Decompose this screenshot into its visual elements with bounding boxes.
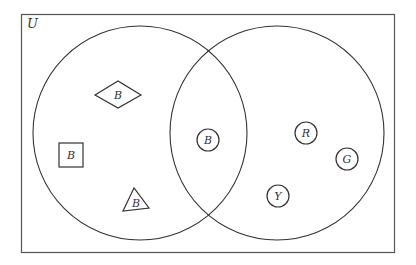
circle-g-element: G [336,148,358,170]
circle-r-label: R [301,127,310,140]
diamond-element: B [95,81,141,108]
circle-r-element: R [295,122,317,144]
circle-g-label: G [343,153,352,166]
circle-y-element: Y [267,185,289,207]
square-element: B [59,143,83,167]
triangle-label: B [131,197,140,210]
circle-b-label: B [203,134,212,147]
venn-diagram: U B B B B R G Y [0,0,416,265]
circle-b-element: B [197,129,219,151]
square-label: B [66,149,75,162]
diamond-label: B [113,89,122,102]
right-set-circle [170,26,384,240]
circle-y-label: Y [274,190,283,203]
triangle-element: B [123,188,149,211]
universe-label: U [27,16,39,31]
